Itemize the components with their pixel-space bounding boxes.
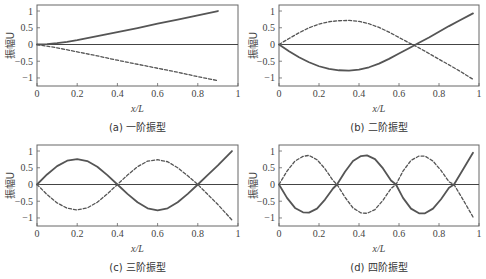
y-tick-label: 1 [270,6,275,17]
panel-d: 10.50−0.5−100.20.40.60.81x/L振幅U(d) 四阶振型 [243,140,486,279]
dashed-mode-curve [37,160,232,220]
plot-frame [279,5,479,86]
x-tick-label: 0.4 [111,88,124,99]
x-tick-label: 0.8 [433,88,446,99]
x-tick-label: 0 [277,228,282,239]
y-tick-label: 0 [270,179,275,190]
x-tick-label: 0.2 [313,88,326,99]
panel-caption: (c) 三阶振型 [109,261,165,273]
x-tick-label: 1 [477,228,482,239]
y-tick-label: −1 [264,212,275,223]
panel-caption: (a) 一阶振型 [109,121,166,133]
x-tick-label: 0 [35,228,40,239]
x-tick-label: 0.4 [111,228,124,239]
panel-b: 10.50−0.5−100.20.40.60.81x/L振幅U(b) 二阶振型 [243,0,486,140]
y-tick-label: 0.5 [263,22,276,33]
x-tick-label: 0.8 [433,228,446,239]
y-tick-label: −1 [22,212,33,223]
x-tick-label: 0.6 [151,228,164,239]
x-tick-label: 1 [236,228,241,239]
panel-caption: (b) 二阶振型 [350,121,407,133]
y-tick-label: 0.5 [21,22,34,33]
x-tick-label: 0.4 [353,228,366,239]
y-tick-label: 1 [270,146,275,157]
x-tick-label: 0.4 [353,88,366,99]
x-tick-label: 0.6 [151,88,164,99]
dashed-mode-curve [279,155,473,217]
y-tick-label: −0.5 [257,56,275,67]
y-tick-label: 0 [28,39,33,50]
plot-frame [37,145,238,226]
y-tick-label: 0.5 [263,162,276,173]
x-tick-label: 0.8 [192,228,205,239]
solid-mode-curve [37,11,218,44]
x-tick-label: 0.8 [192,88,205,99]
plot-frame [279,145,479,226]
x-axis-label: x/L [130,243,144,254]
y-tick-label: 0.5 [21,162,34,173]
x-tick-label: 0 [277,88,282,99]
x-axis-label: x/L [130,103,144,114]
panel-a: 10.50−0.5−100.20.40.60.81x/L振幅U(a) 一阶振型 [0,0,243,140]
y-tick-label: −0.5 [257,196,275,207]
y-tick-label: −1 [264,72,275,83]
chart-d: 10.50−0.5−100.20.40.60.81x/L振幅U(d) 四阶振型 [243,140,486,279]
x-tick-label: 0.2 [313,228,326,239]
y-tick-label: 0 [28,179,33,190]
y-tick-label: −1 [22,72,33,83]
x-tick-label: 0.6 [393,228,406,239]
y-tick-label: −0.5 [15,56,33,67]
x-tick-label: 0 [35,88,40,99]
panel-c: 10.50−0.5−100.20.40.60.81x/L振幅U(c) 三阶振型 [0,140,243,279]
y-tick-label: 1 [28,6,33,17]
y-tick-label: 0 [270,39,275,50]
x-axis-label: x/L [372,243,386,254]
dashed-mode-curve [37,45,218,81]
x-axis-label: x/L [372,103,386,114]
panel-caption: (d) 四阶振型 [350,261,407,273]
x-tick-label: 1 [477,88,482,99]
y-tick-label: −0.5 [15,196,33,207]
solid-mode-curve [37,151,232,210]
x-tick-label: 1 [236,88,241,99]
y-axis-label: 振幅U [4,32,16,59]
x-tick-label: 0.2 [71,228,84,239]
solid-mode-curve [279,153,473,214]
x-tick-label: 0.2 [71,88,84,99]
x-tick-label: 0.6 [393,88,406,99]
y-axis-label: 振幅U [247,172,259,199]
chart-b: 10.50−0.5−100.20.40.60.81x/L振幅U(b) 二阶振型 [243,0,486,140]
y-axis-label: 振幅U [247,32,259,59]
y-tick-label: 1 [28,146,33,157]
plot-frame [37,5,238,86]
chart-c: 10.50−0.5−100.20.40.60.81x/L振幅U(c) 三阶振型 [0,140,243,279]
chart-a: 10.50−0.5−100.20.40.60.81x/L振幅U(a) 一阶振型 [0,0,243,140]
y-axis-label: 振幅U [4,172,16,199]
